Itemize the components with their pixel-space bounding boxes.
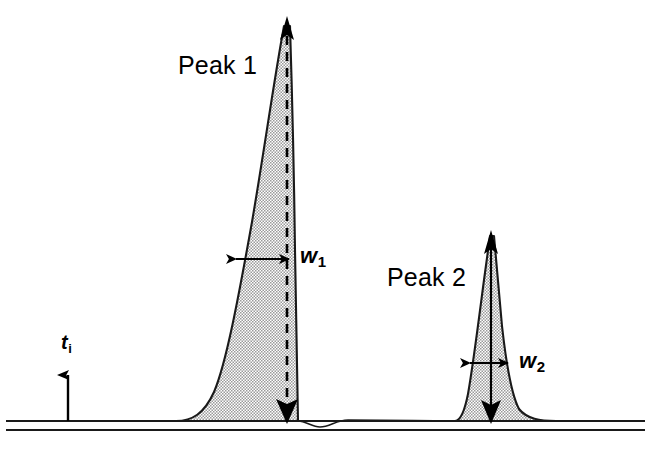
peak-2-width-subscript: 2	[537, 358, 545, 375]
peak-1-label: Peak 1	[178, 53, 257, 78]
peak-2-width-symbol: w	[519, 348, 536, 373]
peak-1-trace	[176, 26, 298, 421]
peak-1-width-label: w1	[300, 245, 326, 269]
intensity-axis-symbol: t	[61, 331, 68, 353]
peak-1-width-subscript: 1	[318, 253, 326, 270]
intensity-axis-label: ti	[61, 332, 72, 355]
peak-2-trace	[455, 236, 556, 421]
peak-1-width-symbol: w	[300, 243, 317, 268]
chromatogram-figure: Peak 1 Peak 2 w1 w2 ti	[0, 0, 651, 457]
peak-2-label: Peak 2	[387, 265, 466, 290]
peak-2-width-label: w2	[519, 350, 545, 374]
peak-1-fill	[176, 26, 298, 421]
intensity-axis-subscript: i	[68, 341, 72, 356]
peak-2-fill	[455, 236, 556, 421]
chromatogram-plot	[0, 0, 651, 457]
